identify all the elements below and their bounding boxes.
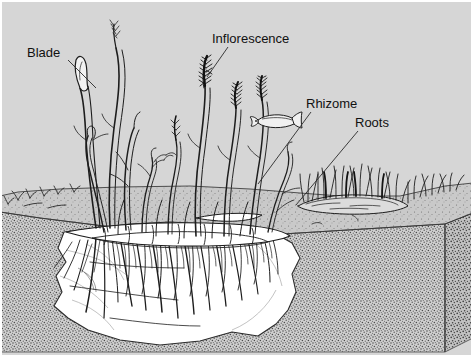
illustration-canvas	[0, 0, 473, 357]
eelgrass-diagram: Blade Inflorescence Rhizome Roots	[0, 0, 473, 357]
label-roots: Roots	[355, 116, 389, 129]
label-inflorescence: Inflorescence	[212, 32, 289, 45]
label-blade: Blade	[27, 46, 60, 59]
label-rhizome: Rhizome	[306, 97, 357, 110]
